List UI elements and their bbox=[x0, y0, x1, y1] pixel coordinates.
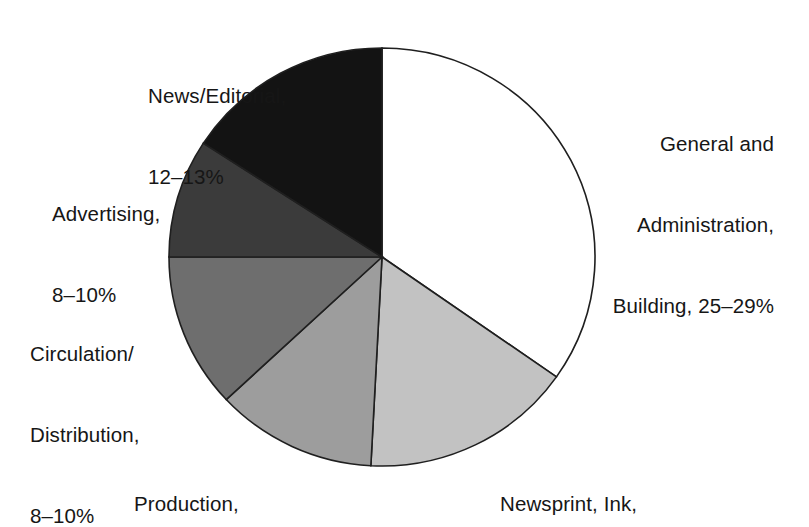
slice-label-production: Production, 10–12% bbox=[134, 436, 334, 527]
slice-label-line: Newsprint, Ink, bbox=[500, 490, 750, 517]
slice-label-line: Administration, bbox=[512, 211, 774, 238]
slice-label-line: Advertising, bbox=[52, 200, 252, 227]
slice-label-line: News/Editorial, bbox=[148, 82, 358, 109]
slice-label-general-administration-building: General and Administration, Building, 25… bbox=[512, 76, 774, 373]
slice-label-line: Production, bbox=[134, 490, 334, 517]
slice-label-newsprint-ink-handling: Newsprint, Ink, Handling, 15–18% bbox=[500, 436, 750, 527]
pie-chart: News/Editorial, 12–13% Advertising, 8–10… bbox=[0, 0, 809, 527]
slice-label-line: General and bbox=[512, 130, 774, 157]
slice-label-line: Circulation/ bbox=[30, 340, 230, 367]
slice-label-line: Building, 25–29% bbox=[512, 292, 774, 319]
